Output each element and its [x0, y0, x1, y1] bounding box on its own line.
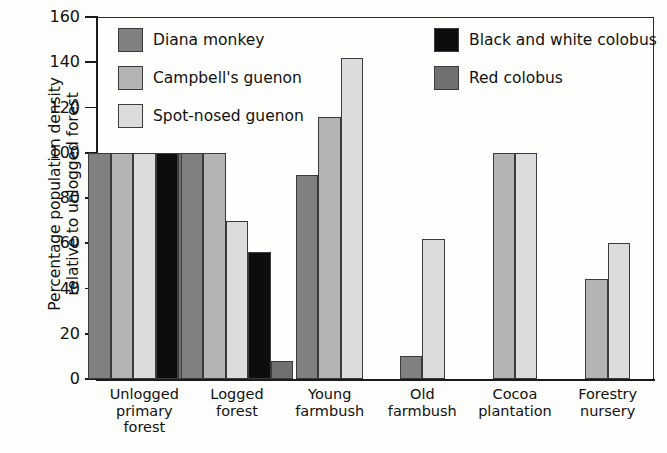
legend-item-label: Spot-nosed guenon: [153, 108, 304, 124]
bar: [341, 58, 363, 379]
x-axis-category-label: Forestry nursery: [561, 386, 654, 419]
bar: [271, 361, 293, 379]
legend-item-label: Diana monkey: [153, 32, 265, 48]
legend-swatch-icon: [434, 66, 459, 90]
bar: [88, 153, 110, 379]
legend-item-label: Campbell's guenon: [153, 70, 302, 86]
legend-swatch-icon: [434, 28, 459, 52]
bar: [226, 221, 248, 379]
bar: [318, 117, 340, 379]
bar: [608, 243, 630, 379]
bar: [585, 279, 607, 379]
legend-item-label: Black and white colobus: [469, 32, 657, 48]
bar: [493, 153, 515, 379]
legend-item-label: Red colobus: [469, 70, 563, 86]
legend-swatch-icon: [118, 66, 143, 90]
x-axis-category-label: Logged forest: [191, 386, 284, 419]
x-axis-category-label: Young farmbush: [283, 386, 376, 419]
x-axis-category-label: Old farmbush: [376, 386, 469, 419]
legend-item: Red colobus: [434, 66, 563, 90]
legend-item: Black and white colobus: [434, 28, 657, 52]
legend-swatch-icon: [118, 104, 143, 128]
x-axis-category-label: Unlogged primary forest: [98, 386, 191, 436]
bar: [156, 153, 178, 379]
bar: [422, 239, 444, 379]
x-axis-category-label: Cocoa plantation: [469, 386, 562, 419]
bar: [515, 153, 537, 379]
bar: [133, 153, 155, 379]
legend-item: Spot-nosed guenon: [118, 104, 304, 128]
bar: [203, 153, 225, 379]
legend-swatch-icon: [118, 28, 143, 52]
bar: [400, 356, 422, 379]
chart-figure: Percentage population density relative t…: [0, 0, 667, 453]
bar: [296, 175, 318, 379]
legend-item: Diana monkey: [118, 28, 265, 52]
bar: [248, 252, 270, 379]
bar: [111, 153, 133, 379]
legend-item: Campbell's guenon: [118, 66, 302, 90]
bar: [181, 153, 203, 379]
